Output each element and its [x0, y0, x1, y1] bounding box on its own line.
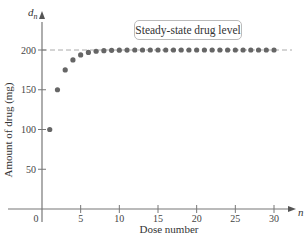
y-tick-label: 150 [21, 84, 36, 95]
data-point [63, 67, 68, 72]
data-point [155, 47, 160, 52]
y-tick-label: 100 [21, 124, 36, 135]
data-point [117, 48, 122, 53]
y-tick-label: 50 [26, 164, 36, 175]
data-point [240, 47, 245, 52]
data-point [256, 47, 261, 52]
y-variable-label: dn [28, 6, 38, 21]
y-axis-arrow-icon [39, 11, 45, 19]
y-axis-title: Amount of drug (mg) [2, 82, 15, 177]
data-point [233, 47, 238, 52]
data-point [109, 48, 114, 53]
x-tick-label: 30 [269, 213, 279, 224]
axes [8, 11, 296, 222]
data-point [140, 47, 145, 52]
steady-state-annotation: Steady-state drug level [134, 20, 242, 40]
data-point [86, 50, 91, 55]
x-tick-label: 10 [114, 213, 124, 224]
data-point [186, 47, 191, 52]
data-point [225, 47, 230, 52]
data-point [124, 47, 129, 52]
data-point [70, 57, 75, 62]
data-point [94, 49, 99, 54]
data-point [210, 47, 215, 52]
x-variable-label: n [298, 206, 304, 218]
x-axis-title: Dose number [140, 223, 199, 235]
data-point [171, 47, 176, 52]
data-point [163, 47, 168, 52]
x-tick-label: 25 [230, 213, 240, 224]
data-point [202, 47, 207, 52]
x-ticks: 051015202530 [34, 205, 280, 224]
data-point [101, 48, 106, 53]
data-point [47, 127, 52, 132]
data-point [148, 47, 153, 52]
data-point [55, 87, 60, 92]
data-points [47, 47, 276, 132]
y-tick-label: 200 [21, 45, 36, 56]
data-point [78, 52, 83, 57]
x-tick-label: 5 [78, 213, 83, 224]
data-point [271, 47, 276, 52]
x-tick-label: 0 [34, 213, 39, 224]
data-point [132, 47, 137, 52]
data-point [194, 47, 199, 52]
data-point [264, 47, 269, 52]
data-point [248, 47, 253, 52]
data-point [217, 47, 222, 52]
data-point [179, 47, 184, 52]
x-axis-arrow-icon [288, 206, 296, 212]
